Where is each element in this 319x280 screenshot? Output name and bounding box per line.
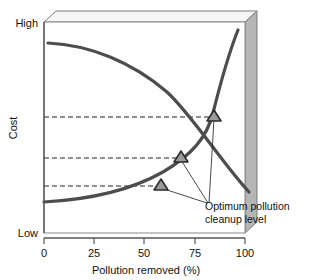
x-tick-label-50: 50	[138, 247, 150, 259]
x-axis-title: Pollution removed (%)	[92, 264, 200, 276]
x-tick-label-25: 25	[88, 247, 100, 259]
y-axis-low-label: Low	[18, 227, 38, 239]
optimum-annotation-line1: Optimum pollution	[205, 200, 290, 212]
y-axis-high-label: High	[15, 17, 38, 29]
chart-canvas: 0 25 50 75 100 Pollution removed (%) Hig…	[0, 0, 319, 280]
optimum-annotation-line2: cleanup level	[205, 213, 266, 225]
x-tick-label-75: 75	[189, 247, 201, 259]
x-tick-label-0: 0	[41, 247, 47, 259]
box-top-face	[44, 11, 257, 22]
x-tick-label-100: 100	[236, 247, 254, 259]
pollution-cost-chart-figure: 0 25 50 75 100 Pollution removed (%) Hig…	[0, 0, 319, 280]
y-axis-title: Cost	[7, 117, 19, 140]
